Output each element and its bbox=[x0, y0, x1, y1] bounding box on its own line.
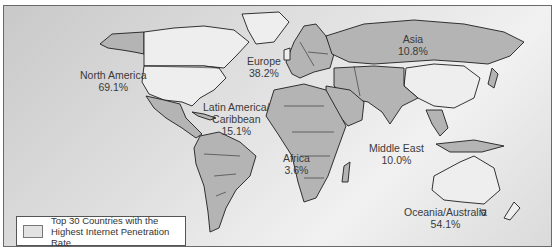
label-latin-america: Latin America/ Caribbean 15.1% bbox=[203, 101, 270, 137]
label-europe: Europe 38.2% bbox=[247, 55, 281, 79]
map-legend: Top 30 Countries with the Highest Intern… bbox=[16, 216, 186, 246]
japan bbox=[488, 68, 498, 88]
europe bbox=[286, 24, 334, 78]
region-value: 69.1% bbox=[80, 81, 147, 93]
region-value: 54.1% bbox=[404, 218, 487, 230]
south-america bbox=[194, 132, 256, 232]
region-name: Europe bbox=[247, 55, 281, 67]
label-oceania: Oceania/Australia 54.1% bbox=[404, 206, 487, 230]
madagascar bbox=[342, 162, 350, 182]
region-name: Middle East bbox=[369, 142, 424, 154]
region-value: 38.2% bbox=[247, 67, 281, 79]
label-north-america: North America 69.1% bbox=[80, 69, 147, 93]
region-value: 10.8% bbox=[398, 45, 428, 57]
alaska bbox=[100, 32, 144, 54]
legend-text: Top 30 Countries with the Highest Intern… bbox=[51, 215, 185, 248]
region-name: Africa bbox=[283, 152, 310, 164]
region-name: North America bbox=[80, 69, 147, 81]
legend-line-1: Top 30 Countries with the bbox=[51, 215, 185, 226]
new-zealand bbox=[504, 202, 520, 220]
region-value: 3.6% bbox=[283, 164, 310, 176]
region-name-2: Caribbean bbox=[203, 113, 270, 125]
region-name: Asia bbox=[398, 33, 428, 45]
uk bbox=[284, 48, 290, 60]
australia bbox=[432, 156, 500, 204]
region-value: 10.0% bbox=[369, 154, 424, 166]
label-middle-east: Middle East 10.0% bbox=[369, 142, 424, 166]
region-name: Oceania/Australia bbox=[404, 206, 487, 218]
indonesia bbox=[436, 140, 504, 152]
se-asia bbox=[426, 110, 448, 136]
greenland bbox=[242, 12, 289, 44]
legend-line-2: Highest Internet Penetration Rate bbox=[51, 226, 185, 248]
china bbox=[404, 64, 480, 108]
label-africa: Africa 3.6% bbox=[283, 152, 310, 176]
label-asia: Asia 10.8% bbox=[398, 33, 428, 57]
world-map: North America 69.1% Europe 38.2% Asia 10… bbox=[3, 5, 552, 247]
region-value: 15.1% bbox=[203, 125, 270, 137]
legend-swatch bbox=[23, 225, 43, 238]
region-name: Latin America/ bbox=[203, 101, 270, 113]
canada bbox=[144, 26, 249, 68]
